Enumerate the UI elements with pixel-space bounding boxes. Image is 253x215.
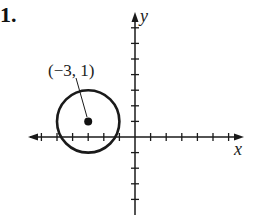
- y-axis-label: y: [138, 6, 148, 26]
- coordinate-plane: (−3, 1) y x: [0, 0, 253, 215]
- center-point: [84, 117, 92, 125]
- y-axis-up-arrow-icon: [132, 12, 139, 22]
- x-axis-label: x: [233, 139, 242, 159]
- annotation-leader-line: [76, 78, 87, 117]
- center-label: (−3, 1): [48, 61, 94, 80]
- x-axis-left-arrow-icon: [28, 134, 38, 141]
- y-axis: [131, 12, 139, 215]
